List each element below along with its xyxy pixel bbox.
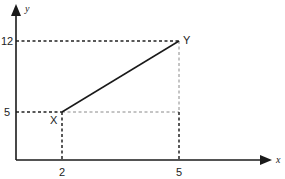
- x-axis-label: x: [275, 154, 281, 165]
- x-tick-2: 2: [59, 166, 65, 178]
- point-y-label: Y: [183, 34, 191, 46]
- y-axis-label: y: [24, 3, 30, 14]
- y-axis-arrow-icon: [11, 4, 21, 16]
- y-tick-5: 5: [4, 106, 10, 118]
- y-tick-12: 12: [1, 35, 13, 47]
- x-axis-arrow-icon: [260, 155, 272, 165]
- point-x-label: X: [50, 114, 58, 126]
- segment-xy: [62, 41, 179, 112]
- coordinate-diagram: y x 12 5 2 5 X Y: [0, 0, 285, 179]
- x-tick-5: 5: [176, 166, 182, 178]
